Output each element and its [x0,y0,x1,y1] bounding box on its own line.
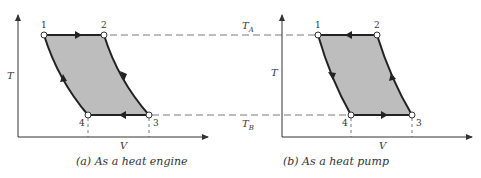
diagram-b-heat-pump: 1 2 3 4 T V [271,15,472,151]
state-point-4 [348,112,354,118]
caption-a: (a) As a heat engine [76,155,188,168]
state-point-2 [101,32,107,38]
point-label-1: 1 [315,20,321,30]
point-label-2: 2 [374,20,380,30]
diagram-a-heat-engine: 1 2 3 4 T V [7,15,208,151]
state-point-1 [41,32,47,38]
carnot-cycle-diagrams: 1 2 3 4 T V TA TB 1 2 3 4 T V [0,0,481,178]
point-label-1: 1 [41,20,47,30]
state-point-2 [374,32,380,38]
hot-reservoir-label: TA [242,20,254,34]
x-axis-label: V [120,140,129,151]
state-point-1 [315,32,321,38]
cycle-area [44,35,149,115]
point-label-3: 3 [416,118,422,128]
point-label-4: 4 [79,118,85,128]
cold-reservoir-label: TB [242,118,254,132]
y-axis-label: T [271,67,279,78]
x-axis-label: V [379,140,388,151]
point-label-2: 2 [101,20,107,30]
state-point-4 [85,112,91,118]
state-point-3 [409,112,415,118]
y-axis-label: T [7,70,15,81]
state-point-3 [146,112,152,118]
caption-b: (b) As a heat pump [283,155,389,168]
point-label-3: 3 [153,118,159,128]
point-label-4: 4 [342,118,348,128]
